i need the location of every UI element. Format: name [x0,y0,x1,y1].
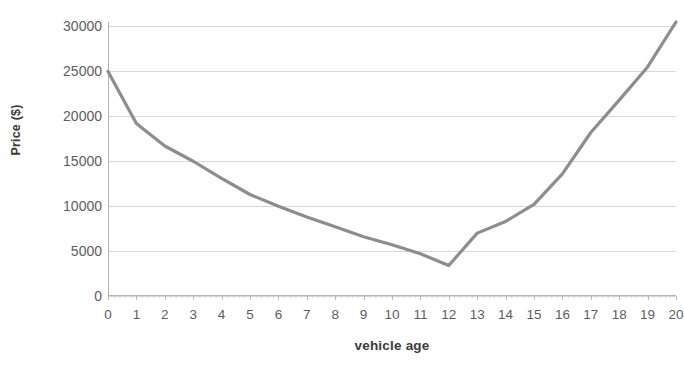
y-tick-label-20000: 20000 [20,109,102,123]
x-minor-tick [199,296,200,298]
x-minor-tick [432,296,433,298]
x-tick-label-11: 11 [413,308,427,322]
x-minor-tick [585,296,586,298]
x-tick-8 [335,296,336,300]
x-minor-tick [511,296,512,298]
x-minor-tick [460,296,461,298]
x-minor-tick [625,296,626,298]
chart-title-cropped [190,0,300,5]
x-tick-19 [648,296,649,300]
x-tick-0 [108,296,109,300]
x-minor-tick [398,296,399,298]
x-minor-tick [443,296,444,298]
x-minor-tick [517,296,518,298]
plot-area [108,22,676,296]
x-minor-tick [159,296,160,298]
x-minor-tick [125,296,126,298]
x-minor-tick [295,296,296,298]
x-tick-12 [449,296,450,300]
x-tick-5 [250,296,251,300]
x-minor-tick [403,296,404,298]
x-minor-tick [244,296,245,298]
x-minor-tick [489,296,490,298]
x-minor-tick [437,296,438,298]
x-tick-label-14: 14 [498,308,513,322]
x-minor-tick [227,296,228,298]
x-tick-label-3: 3 [189,308,197,322]
x-tick-6 [278,296,279,300]
x-tick-9 [364,296,365,300]
x-minor-tick [324,296,325,298]
x-minor-tick [636,296,637,298]
y-tick-label-5000: 5000 [20,244,102,258]
x-minor-tick [330,296,331,298]
x-tick-label-1: 1 [133,308,141,322]
x-tick-3 [193,296,194,300]
y-axis-tick-labels: 050001000015000200002500030000 [14,0,102,365]
x-minor-tick [273,296,274,298]
x-minor-tick [188,296,189,298]
x-minor-tick [665,296,666,298]
x-minor-tick [170,296,171,298]
x-tick-label-13: 13 [470,308,485,322]
x-minor-tick [551,296,552,298]
x-minor-tick [375,296,376,298]
x-tick-label-10: 10 [384,308,399,322]
x-minor-tick [176,296,177,298]
x-tick-10 [392,296,393,300]
x-minor-tick [119,296,120,298]
x-axis-tick-labels: 01234567891011121314151617181920 [108,308,676,328]
x-minor-tick [631,296,632,298]
y-tick-label-0: 0 [20,289,102,303]
x-tick-11 [420,296,421,300]
x-minor-tick [216,296,217,298]
x-minor-tick [540,296,541,298]
y-tick-label-30000: 30000 [20,19,102,33]
x-minor-tick [557,296,558,298]
x-tick-label-5: 5 [246,308,254,322]
x-minor-tick [483,296,484,298]
x-tick-1 [136,296,137,300]
x-minor-tick [256,296,257,298]
x-minor-tick [596,296,597,298]
x-tick-label-20: 20 [668,308,683,322]
x-minor-tick [301,296,302,298]
x-tick-18 [619,296,620,300]
x-minor-tick [653,296,654,298]
x-minor-tick [614,296,615,298]
x-tick-label-7: 7 [303,308,311,322]
x-minor-tick [114,296,115,298]
x-minor-tick [358,296,359,298]
x-minor-tick [523,296,524,298]
x-minor-tick [454,296,455,298]
x-minor-tick [267,296,268,298]
x-tick-label-0: 0 [104,308,112,322]
x-minor-tick [386,296,387,298]
x-tick-label-17: 17 [583,308,598,322]
y-tick-label-10000: 10000 [20,199,102,213]
x-minor-tick [415,296,416,298]
x-minor-tick [426,296,427,298]
x-minor-tick [659,296,660,298]
x-minor-tick [409,296,410,298]
x-tick-7 [307,296,308,300]
x-tick-label-4: 4 [218,308,226,322]
x-tick-14 [506,296,507,300]
x-axis-title: vehicle age [108,338,676,353]
x-minor-tick [528,296,529,298]
x-minor-tick [148,296,149,298]
x-minor-tick [210,296,211,298]
x-tick-17 [591,296,592,300]
x-minor-tick [608,296,609,298]
x-tick-13 [477,296,478,300]
x-tick-label-8: 8 [331,308,339,322]
x-minor-tick [545,296,546,298]
x-minor-tick [318,296,319,298]
y-tick-label-15000: 15000 [20,154,102,168]
x-tick-label-2: 2 [161,308,169,322]
x-tick-label-19: 19 [640,308,655,322]
price-series-line [108,22,676,296]
x-minor-tick [347,296,348,298]
x-tick-2 [165,296,166,300]
x-minor-tick [602,296,603,298]
